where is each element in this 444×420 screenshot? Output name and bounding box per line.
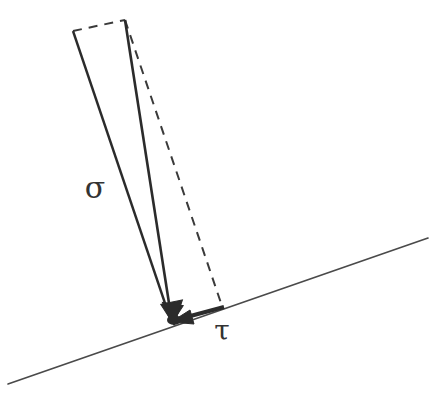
normal-stress-label: σ xyxy=(85,170,105,205)
shear-stress-label: τ xyxy=(214,314,230,347)
vector-convergence-point xyxy=(167,315,181,325)
figure-background xyxy=(0,0,444,420)
stress-decomposition-figure: σ τ xyxy=(0,0,444,420)
diagram-canvas: σ τ xyxy=(0,0,444,420)
